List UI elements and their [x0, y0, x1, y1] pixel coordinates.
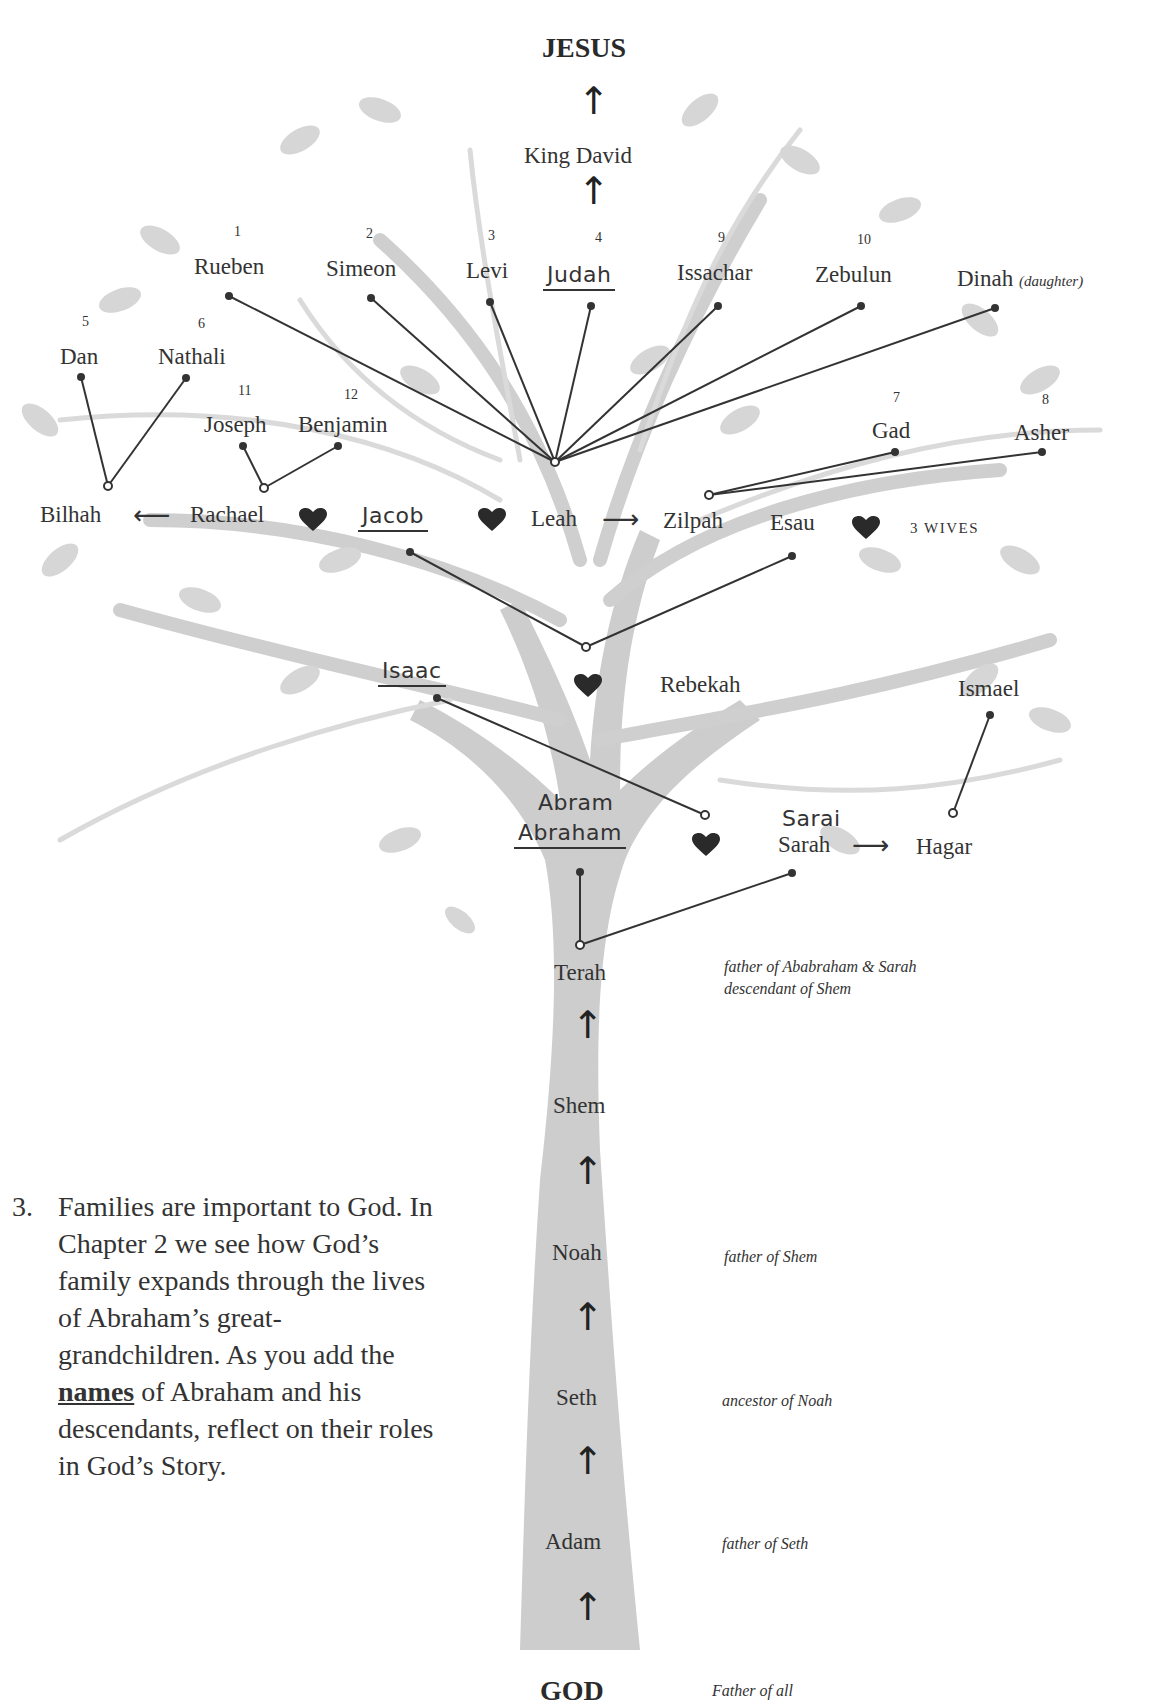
son-number: 9 — [718, 230, 725, 246]
son-number: 6 — [198, 316, 205, 332]
label-bilhah: Bilhah — [40, 502, 101, 528]
handwritten-abram: Abram — [538, 790, 613, 815]
son-number: 10 — [857, 232, 871, 248]
label-zilpah: Zilpah — [663, 508, 723, 534]
abraham-fill-in[interactable]: Abraham — [514, 820, 626, 845]
heart-icon — [478, 508, 506, 532]
arrow-up-icon: ↑ — [578, 82, 610, 120]
son-zebulun: Zebulun — [815, 262, 892, 288]
note-noah: father of Shem — [724, 1246, 817, 1268]
son-rueben: Rueben — [194, 254, 264, 280]
question-number: 3. — [12, 1188, 33, 1225]
arrow-up-icon: ↑ — [572, 1152, 604, 1190]
trunk-adam: Adam — [545, 1529, 601, 1555]
son-number: 11 — [238, 383, 251, 399]
label-rachael: Rachael — [190, 502, 264, 528]
son-number: 7 — [893, 390, 900, 406]
label-esau-wives: 3 wives — [910, 520, 979, 537]
son-gad: Gad — [872, 418, 910, 444]
trunk-noah: Noah — [552, 1240, 602, 1266]
label-rebekah: Rebekah — [660, 672, 740, 698]
son-issachar: Issachar — [677, 260, 752, 286]
handwritten-abraham: Abraham — [514, 820, 626, 849]
heart-icon — [852, 516, 880, 540]
daughter-dinah: Dinah (daughter) — [957, 266, 1083, 292]
handwritten-judah: Judah — [543, 262, 615, 291]
son-simeon: Simeon — [326, 256, 396, 282]
trunk-shem: Shem — [553, 1093, 605, 1119]
arrow-up-icon: ↑ — [572, 1588, 604, 1626]
handwritten-sarai: Sarai — [782, 806, 841, 831]
son-levi: Levi — [466, 258, 508, 284]
instructions-text: 3. Families are important to God. In Cha… — [20, 1188, 440, 1484]
heart-icon — [692, 833, 720, 857]
label-hagar: Hagar — [916, 834, 972, 860]
arrow-up-icon: ↑ — [572, 1442, 604, 1480]
son-nathali: Nathali — [158, 344, 226, 370]
heart-icon — [299, 508, 327, 532]
title-god: GOD — [540, 1675, 604, 1701]
son-asher: Asher — [1014, 420, 1069, 446]
label-sarah: Sarah — [778, 832, 830, 858]
son-joseph: Joseph — [204, 412, 267, 438]
label-ismael: Ismael — [958, 676, 1019, 702]
son-number: 4 — [595, 230, 602, 246]
heart-icon — [574, 674, 602, 698]
note-adam: father of Seth — [722, 1533, 808, 1555]
note-terah: father of Ababraham & Sarahdescendant of… — [724, 956, 917, 1000]
son-judah-fill-in[interactable]: Judah — [543, 262, 615, 287]
emphasis-names: names — [58, 1376, 134, 1407]
note-seth: ancestor of Noah — [722, 1390, 832, 1412]
son-number: 8 — [1042, 392, 1049, 408]
son-benjamin: Benjamin — [298, 412, 387, 438]
son-number: 12 — [344, 387, 358, 403]
son-number: 1 — [234, 224, 241, 240]
arrow-up-icon: ↑ — [572, 1298, 604, 1336]
handwritten-jacob: Jacob — [358, 503, 428, 532]
son-number: 2 — [366, 226, 373, 242]
trunk-seth: Seth — [556, 1385, 597, 1411]
son-dan: Dan — [60, 344, 98, 370]
arrow-up-icon: ↑ — [578, 172, 610, 210]
arrow-right-icon: ⟶ — [602, 504, 639, 534]
isaac-fill-in[interactable]: Isaac — [378, 658, 446, 683]
trunk-terah: Terah — [554, 960, 606, 986]
son-number: 5 — [82, 314, 89, 330]
title-jesus: JESUS — [542, 32, 626, 64]
handwritten-isaac: Isaac — [378, 658, 446, 687]
label-king-david: King David — [524, 143, 632, 169]
sarai-fill-in[interactable]: Sarai — [782, 806, 841, 831]
jacob-fill-in[interactable]: Jacob — [358, 503, 428, 528]
arrow-right-icon: ⟶ — [852, 830, 889, 860]
label-leah: Leah — [531, 506, 577, 532]
arrow-left-icon: ⟵ — [133, 500, 170, 530]
arrow-up-icon: ↑ — [572, 1006, 604, 1044]
note-god: Father of all — [712, 1680, 793, 1701]
label-esau: Esau — [770, 510, 815, 536]
abram-fill-in[interactable]: Abram — [538, 790, 613, 815]
son-number: 3 — [488, 228, 495, 244]
